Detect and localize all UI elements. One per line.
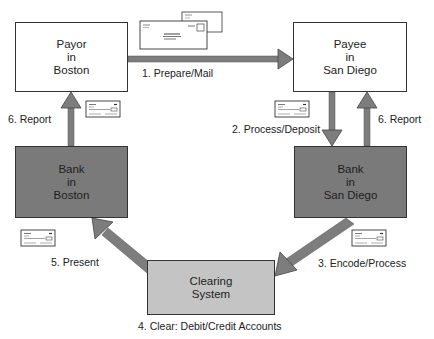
node-clearing-system: Clearing System — [147, 260, 275, 315]
node-label: Payee — [323, 38, 377, 51]
node-payee-san-diego: Payee in San Diego — [293, 22, 407, 92]
check-icon-present — [21, 230, 55, 246]
arrow-report-right — [357, 92, 377, 146]
step-label-report-left: 6. Report — [8, 113, 51, 125]
arrow-present — [92, 218, 154, 273]
node-label: in — [323, 51, 377, 64]
step-label-present: 5. Present — [51, 256, 99, 268]
node-label: San Diego — [323, 64, 377, 77]
node-payor-boston: Payor in Boston — [15, 22, 128, 92]
check-icon-report-left — [86, 101, 120, 117]
node-label: Bank — [54, 163, 90, 176]
check-icon-encode-process — [352, 230, 386, 246]
node-label: in — [54, 176, 90, 189]
node-label: in — [324, 176, 378, 189]
check-icon-process-deposit — [275, 101, 309, 117]
node-label: System — [190, 288, 233, 301]
step-label-process-deposit: 2. Process/Deposit — [232, 123, 320, 135]
node-label: San Diego — [324, 189, 378, 202]
envelope-icon — [140, 12, 222, 49]
step-label-clear: 4. Clear: Debit/Credit Accounts — [138, 320, 282, 332]
arrow-process-deposit — [322, 92, 342, 146]
step-label-prepare-mail: 1. Prepare/Mail — [142, 67, 213, 79]
node-label: Clearing — [190, 275, 233, 288]
arrow-prepare-mail — [128, 49, 293, 69]
node-label: Payor — [54, 38, 90, 51]
node-label: in — [54, 51, 90, 64]
step-label-report-right: 6. Report — [378, 113, 421, 125]
node-bank-san-diego: Bank in San Diego — [294, 146, 407, 218]
node-label: Bank — [324, 163, 378, 176]
step-label-encode-process: 3. Encode/Process — [318, 257, 406, 269]
node-bank-boston: Bank in Boston — [15, 146, 128, 218]
node-label: Boston — [54, 64, 90, 77]
node-label: Boston — [54, 189, 90, 202]
arrow-report-left — [61, 92, 81, 146]
